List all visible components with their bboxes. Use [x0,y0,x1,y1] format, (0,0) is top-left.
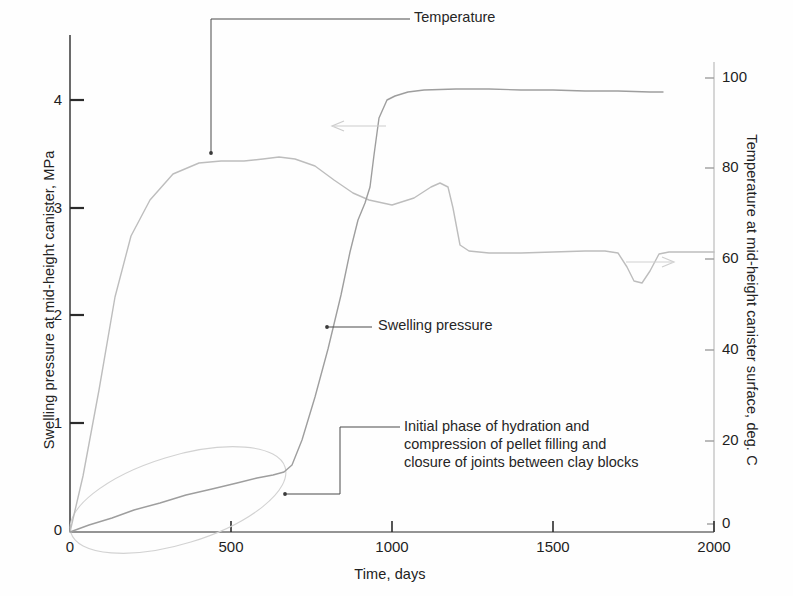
right-arrow-icon [626,257,674,267]
bottom-axis-ticks [231,521,714,532]
y-axis-title-left: Swelling pressure at mid-height canister… [41,65,57,535]
initial-phase-callout-anchor [283,492,287,496]
bottom-tick-label-500: 500 [196,538,266,555]
x-axis-title: Time, days [290,566,490,582]
temperature-callout-anchor [209,151,213,155]
bottom-tick-label-1500: 1500 [518,538,588,555]
chart-figure: 4 3 2 1 0 100 80 60 40 20 0 0 500 1000 1… [0,0,793,596]
bottom-tick-label-1000: 1000 [357,538,427,555]
initial-phase-annotation-line3: closure of joints between clay blocks [404,454,639,472]
swelling-pressure-callout-anchor [325,325,329,329]
temperature-annotation-label: Temperature [414,9,495,27]
initial-phase-annotation-line1: Initial phase of hydration and [404,418,589,436]
y-axis-title-right: Temperature at mid-height canister surfa… [744,65,760,535]
temperature-curve [70,157,714,532]
right-axis-ticks [705,78,714,524]
chart-plot-area [0,0,793,596]
initial-phase-annotation-line2: compression of pellet filling and [404,436,606,454]
swelling-pressure-annotation-label: Swelling pressure [378,317,492,335]
bottom-tick-label-0: 0 [35,538,105,555]
temperature-callout-leader [211,19,410,153]
bottom-tick-label-2000: 2000 [679,538,749,555]
left-axis-ticks [70,100,84,423]
